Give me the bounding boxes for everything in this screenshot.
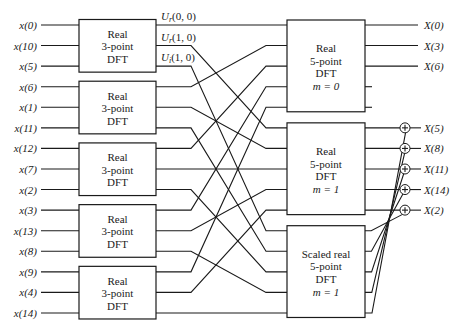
input-label: x(0) bbox=[18, 19, 37, 32]
input-label: x(14) bbox=[13, 307, 38, 320]
output-label: X(11) bbox=[423, 163, 449, 176]
input-label: x(1) bbox=[18, 101, 37, 114]
input-label: x(9) bbox=[18, 266, 37, 279]
intermediate-label-args: (1, 0) bbox=[172, 31, 196, 44]
three-point-block-label: DFT bbox=[107, 115, 128, 127]
input-label: x(10) bbox=[13, 40, 38, 53]
input-label: x(13) bbox=[13, 225, 38, 238]
input-label: x(12) bbox=[13, 142, 38, 155]
input-label: x(2) bbox=[18, 184, 37, 197]
adder-feed-wire bbox=[365, 173, 404, 271]
three-point-block-label: Real bbox=[107, 275, 127, 287]
output-label: X(5) bbox=[423, 122, 444, 135]
three-point-block-label: 3-point bbox=[102, 40, 134, 52]
five-point-block-label: Real bbox=[316, 145, 336, 157]
three-point-block-label: 3-point bbox=[102, 102, 134, 114]
three-point-block-label: DFT bbox=[107, 238, 128, 250]
input-label: x(8) bbox=[18, 245, 37, 258]
input-label: x(11) bbox=[14, 122, 38, 135]
output-label: X(14) bbox=[423, 184, 449, 197]
dft-flow-diagram: x(0)x(10)x(5)x(6)x(1)x(11)x(12)x(7)x(2)x… bbox=[0, 0, 458, 333]
output-label: X(3) bbox=[423, 40, 444, 53]
input-label: x(5) bbox=[18, 60, 37, 73]
output-label: X(0) bbox=[423, 19, 444, 32]
three-point-block-label: 3-point bbox=[102, 225, 134, 237]
five-point-block-label: m = 1 bbox=[313, 286, 339, 298]
output-label: X(6) bbox=[423, 60, 444, 73]
input-label: x(4) bbox=[18, 286, 37, 299]
intermediate-label-args: (1, 0) bbox=[171, 51, 195, 64]
five-point-block-label: Scaled real bbox=[302, 248, 351, 260]
input-label: x(7) bbox=[18, 163, 37, 176]
five-point-block-label: DFT bbox=[316, 67, 337, 79]
intermediate-label: Ur(1, 0) bbox=[161, 31, 196, 45]
three-point-block-label: Real bbox=[107, 213, 127, 225]
intermediate-label-args: (0, 0) bbox=[172, 10, 196, 23]
input-label: x(6) bbox=[18, 81, 37, 94]
three-point-block-label: DFT bbox=[107, 300, 128, 312]
output-label: X(8) bbox=[423, 142, 444, 155]
three-point-block-label: Real bbox=[107, 28, 127, 40]
five-point-block-label: DFT bbox=[316, 170, 337, 182]
five-point-block-label: 5-point bbox=[310, 260, 342, 272]
five-point-block-label: 5-point bbox=[310, 158, 342, 170]
three-point-block-label: 3-point bbox=[102, 164, 134, 176]
three-point-block-label: DFT bbox=[107, 176, 128, 188]
adder-feed-wire bbox=[365, 132, 406, 313]
intermediate-label: Ui(1, 0) bbox=[161, 51, 195, 65]
input-label: x(3) bbox=[18, 204, 37, 217]
five-point-block-label: m = 1 bbox=[313, 183, 339, 195]
three-point-block-label: Real bbox=[107, 90, 127, 102]
five-point-block-label: 5-point bbox=[310, 55, 342, 67]
five-point-block-label: m = 0 bbox=[313, 80, 340, 92]
five-point-block-label: DFT bbox=[316, 273, 337, 285]
intermediate-label: Ur(0, 0) bbox=[161, 10, 196, 24]
three-point-block-label: 3-point bbox=[102, 287, 134, 299]
output-label: X(2) bbox=[423, 204, 444, 217]
three-point-block-label: Real bbox=[107, 151, 127, 163]
five-point-block-label: Real bbox=[316, 42, 336, 54]
three-point-block-label: DFT bbox=[107, 53, 128, 65]
